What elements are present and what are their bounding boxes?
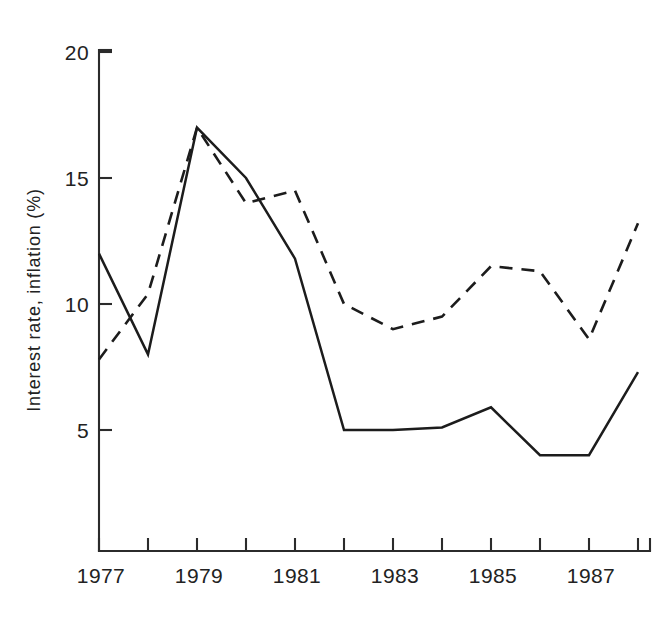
x-tick-label: 1977 <box>77 564 125 587</box>
x-axis-tick-labels: 197719791981198319851987 <box>77 564 615 587</box>
series-line-inflation-dashed <box>99 128 638 360</box>
y-tick-label: 10 <box>65 293 89 316</box>
series-line-interest-rate-solid <box>99 128 638 456</box>
x-tick-label: 1983 <box>371 564 419 587</box>
x-axis-ticks <box>99 538 650 551</box>
y-axis-tick-labels: 5101520 <box>65 41 89 442</box>
x-tick-label: 1985 <box>469 564 517 587</box>
y-tick-label: 20 <box>65 41 89 64</box>
y-tick-label: 15 <box>65 167 89 190</box>
y-tick-label: 5 <box>77 419 89 442</box>
y-axis: 5101520 <box>65 41 112 551</box>
y-axis-ticks <box>99 50 112 430</box>
x-tick-label: 1979 <box>175 564 223 587</box>
chart-figure: 5101520 197719791981198319851987 Interes… <box>0 0 672 634</box>
y-axis-title: Interest rate, inflation (%) <box>24 188 44 412</box>
x-axis: 197719791981198319851987 <box>77 538 650 587</box>
x-tick-label: 1987 <box>567 564 615 587</box>
x-tick-label: 1981 <box>273 564 321 587</box>
chart-series-group <box>99 128 638 456</box>
line-chart: 5101520 197719791981198319851987 Interes… <box>0 0 672 634</box>
